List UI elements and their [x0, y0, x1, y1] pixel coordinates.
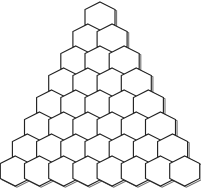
hexagon-pyramid-svg: [0, 0, 201, 191]
hexagon-diagram: [0, 0, 201, 191]
